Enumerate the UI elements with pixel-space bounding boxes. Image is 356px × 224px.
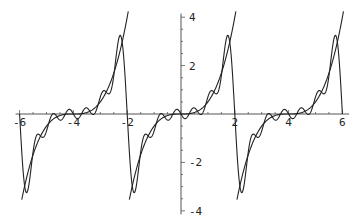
x-tick-label: 6 (339, 116, 346, 129)
y-tick-label: -4 (189, 205, 203, 218)
y-tick-label: -2 (189, 156, 202, 169)
function-curve (22, 11, 344, 199)
fourier-series-plot: -6-4-2246-4-224 (0, 0, 356, 224)
y-tick-label: 4 (189, 11, 196, 24)
y-tick-label: 2 (189, 60, 196, 73)
